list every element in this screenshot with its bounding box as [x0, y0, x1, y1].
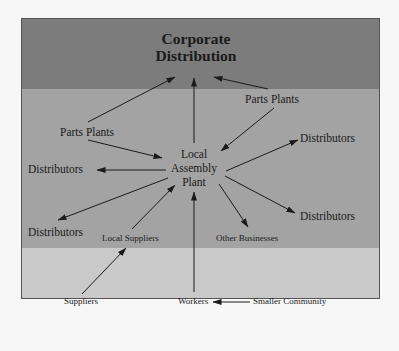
node-distributors-left-bottom: Distributors — [28, 227, 83, 239]
arrow-partsright-to-corporate — [214, 77, 268, 89]
node-other-businesses: Other Businesses — [216, 234, 278, 243]
node-distributors-right-bottom: Distributors — [300, 211, 355, 223]
hub-line-1: Local — [160, 147, 228, 161]
hub-line-2: Assembly — [160, 161, 228, 175]
node-distributors-right-top: Distributors — [300, 133, 355, 145]
node-distributors-left: Distributors — [28, 164, 83, 176]
arrow-partsleft-to-corporate — [88, 77, 175, 122]
arrow-localsuppliers-to-plant — [132, 185, 175, 229]
arrow-partsright-to-plant — [221, 108, 274, 151]
hub-line-3: Plant — [160, 175, 228, 189]
node-parts-plants-right: Parts Plants — [245, 94, 299, 106]
node-local-suppliers: Local Suppliers — [102, 234, 159, 243]
arrow-partsleft-to-plant — [88, 140, 162, 158]
node-workers: Workers — [178, 297, 208, 306]
arrow-plant-to-distributors-right-bottom — [225, 176, 295, 213]
node-suppliers: Suppliers — [64, 297, 98, 306]
arrow-plant-to-other-businesses — [219, 184, 248, 227]
node-parts-plants-left: Parts Plants — [60, 127, 114, 139]
arrow-suppliers-to-localsuppliers — [82, 248, 126, 294]
corporate-distribution-title: Corporate Distribution — [146, 30, 246, 64]
title-line-1: Corporate — [146, 30, 246, 47]
node-smaller-community: Smaller Community — [253, 297, 326, 306]
arrow-plant-to-distributors-right-top — [226, 140, 298, 171]
title-line-2: Distribution — [146, 47, 246, 64]
arrow-plant-to-distributors-left-bottom — [58, 178, 168, 220]
local-assembly-plant-hub: Local Assembly Plant — [160, 147, 228, 189]
